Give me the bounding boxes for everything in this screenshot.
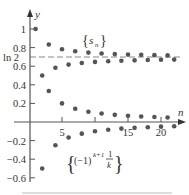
data-point <box>159 57 164 62</box>
data-point <box>86 109 91 114</box>
data-point <box>53 65 58 70</box>
data-point <box>132 58 137 63</box>
data-point <box>47 89 52 94</box>
data-point <box>119 126 124 131</box>
data-point <box>80 131 85 136</box>
data-point <box>60 47 65 52</box>
y-tick-label: 0.2 <box>13 98 26 109</box>
svg-text:n: n <box>95 41 99 49</box>
data-point <box>126 113 131 118</box>
data-point <box>152 53 157 58</box>
data-point <box>172 124 177 129</box>
data-point <box>99 51 104 56</box>
data-point <box>73 106 78 111</box>
data-point <box>106 59 111 64</box>
data-point <box>60 101 65 106</box>
data-point <box>113 113 118 118</box>
data-point <box>93 60 98 65</box>
data-point <box>146 125 151 130</box>
x-ticks: 51520 <box>59 117 166 138</box>
y-tick-label: −0.6 <box>7 173 26 184</box>
data-point <box>93 129 98 134</box>
y-tick-label: 1 <box>21 24 26 35</box>
svg-text:k+1: k+1 <box>93 151 104 159</box>
data-point <box>66 135 71 140</box>
data-point <box>126 52 131 57</box>
data-point <box>73 49 78 54</box>
y-tick-label: −0.4 <box>7 154 27 165</box>
data-point <box>172 57 177 62</box>
svg-text:}: } <box>100 33 107 48</box>
data-point <box>99 111 104 116</box>
data-point <box>80 61 85 66</box>
data-point <box>86 50 91 55</box>
y-ticks: 10.80.60.40.2−0.2−0.4−0.6 <box>7 24 35 184</box>
data-point <box>139 114 144 119</box>
data-point <box>165 115 170 120</box>
x-axis-label: n <box>178 106 184 118</box>
data-point <box>152 115 157 120</box>
sequence-chart: y n 10.80.60.40.2−0.2−0.4−0.6 51520 ln 2… <box>0 0 189 195</box>
data-point <box>146 58 151 63</box>
svg-text:1: 1 <box>108 149 113 159</box>
data-point <box>165 53 170 58</box>
data-point <box>139 53 144 58</box>
data-point <box>159 124 164 129</box>
data-point <box>106 127 111 132</box>
data-point <box>113 52 118 57</box>
data-point <box>40 166 45 171</box>
data-point <box>47 42 52 47</box>
y-tick-label: 0.4 <box>13 80 27 91</box>
svg-text:k: k <box>107 160 112 170</box>
y-tick-label: −0.2 <box>7 136 26 147</box>
data-point <box>119 58 124 63</box>
partial-sums-label: { s n } <box>82 33 107 49</box>
svg-text:}: } <box>114 152 124 174</box>
data-point <box>33 27 38 32</box>
data-point <box>40 73 45 78</box>
terms-label: { (−1) k+1 1 k } <box>66 149 124 174</box>
ln2-label: ln 2 <box>3 52 19 63</box>
svg-text:{: { <box>82 33 89 48</box>
data-point <box>66 62 71 67</box>
x-tick-label: 5 <box>59 127 64 138</box>
x-axis-arrow-icon <box>178 119 186 125</box>
y-axis-arrow-icon <box>27 9 33 17</box>
x-tick-label: 15 <box>123 127 134 138</box>
y-axis-label: y <box>34 8 40 20</box>
data-point <box>132 126 137 131</box>
data-point <box>53 143 58 148</box>
svg-text:(−1): (−1) <box>74 155 91 167</box>
svg-text:s: s <box>89 34 93 46</box>
